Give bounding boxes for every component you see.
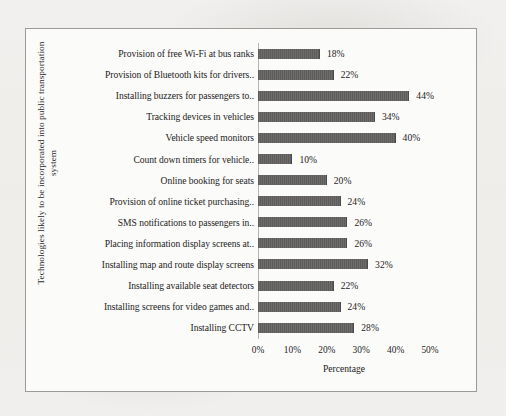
bar-value-label: 10% <box>299 154 317 165</box>
bar <box>258 196 341 206</box>
bar-row: Installing buzzers for passengers to..44… <box>36 85 466 106</box>
bar <box>258 91 409 101</box>
bar-container: 26% <box>258 233 466 254</box>
bar-value-label: 24% <box>348 301 366 312</box>
x-axis-ticks: 0%10%20%30%40%50% <box>258 345 430 359</box>
bar-container: 24% <box>258 191 466 212</box>
category-label: SMS notifications to passengers in.. <box>36 217 258 228</box>
category-label: Provision of online ticket purchasing.. <box>36 196 258 207</box>
bar-container: 20% <box>258 170 466 191</box>
category-label: Placing information display screens at.. <box>36 238 258 249</box>
category-label: Tracking devices in vehicles <box>36 111 258 122</box>
category-label: Provision of free Wi-Fi at bus ranks <box>36 48 258 59</box>
bar-value-label: 26% <box>354 217 372 228</box>
category-label: Online booking for seats <box>36 175 258 186</box>
bar-rows: Provision of free Wi-Fi at bus ranks18%P… <box>36 43 466 338</box>
bar-container: 22% <box>258 64 466 85</box>
bar <box>258 49 320 59</box>
bar-value-label: 32% <box>375 259 393 270</box>
bar-row: Installing available seat detectors22% <box>36 275 466 296</box>
bar-container: 44% <box>258 85 466 106</box>
bar-container: 28% <box>258 317 466 338</box>
bar-value-label: 40% <box>403 132 421 143</box>
bar-row: Installing screens for video games and..… <box>36 296 466 317</box>
bar <box>258 238 347 248</box>
bar <box>258 259 368 269</box>
x-axis-title: Percentage <box>258 363 430 374</box>
bar-container: 22% <box>258 275 466 296</box>
category-label: Installing CCTV <box>36 322 258 333</box>
bar-container: 18% <box>258 43 466 64</box>
bar-container: 26% <box>258 212 466 233</box>
bar <box>258 154 292 164</box>
category-label: Installing map and route display screens <box>36 259 258 270</box>
bar-value-label: 26% <box>354 238 372 249</box>
bar-value-label: 18% <box>327 48 345 59</box>
bar-value-label: 34% <box>382 111 400 122</box>
bar <box>258 112 375 122</box>
bar-container: 34% <box>258 106 466 127</box>
bar-row: Online booking for seats20% <box>36 170 466 191</box>
bar-row: Tracking devices in vehicles34% <box>36 106 466 127</box>
bar <box>258 217 347 227</box>
x-axis-tick-label: 40% <box>387 345 404 355</box>
bar-row: Placing information display screens at..… <box>36 233 466 254</box>
bar-row: Provision of free Wi-Fi at bus ranks18% <box>36 43 466 64</box>
category-label: Vehicle speed monitors <box>36 132 258 143</box>
bar-row: Vehicle speed monitors40% <box>36 127 466 148</box>
bar-row: Provision of online ticket purchasing..2… <box>36 191 466 212</box>
bar-value-label: 22% <box>341 280 359 291</box>
bar-row: SMS notifications to passengers in..26% <box>36 212 466 233</box>
category-label: Provision of Bluetooth kits for drivers.… <box>36 69 258 80</box>
bar-value-label: 20% <box>334 175 352 186</box>
bar <box>258 70 334 80</box>
bar <box>258 175 327 185</box>
bar-container: 10% <box>258 148 466 169</box>
bar-row: Count down timers for vehicle..10% <box>36 148 466 169</box>
chart-frame: Technologies likely to be incorporated i… <box>25 28 477 392</box>
bar <box>258 281 334 291</box>
x-axis-tick-label: 0% <box>252 345 265 355</box>
category-label: Installing buzzers for passengers to.. <box>36 90 258 101</box>
category-label: Installing available seat detectors <box>36 280 258 291</box>
bar-row: Installing CCTV28% <box>36 317 466 338</box>
bar-value-label: 44% <box>416 90 434 101</box>
bar <box>258 133 396 143</box>
category-label: Installing screens for video games and.. <box>36 301 258 312</box>
bar-row: Installing map and route display screens… <box>36 254 466 275</box>
x-axis-tick-label: 30% <box>353 345 370 355</box>
plot-area: Provision of free Wi-Fi at bus ranks18%P… <box>36 37 466 383</box>
bar-container: 40% <box>258 127 466 148</box>
bar-container: 24% <box>258 296 466 317</box>
bar <box>258 323 354 333</box>
bar-value-label: 28% <box>361 322 379 333</box>
x-axis-tick-label: 10% <box>284 345 301 355</box>
category-label: Count down timers for vehicle.. <box>36 154 258 165</box>
bar-row: Provision of Bluetooth kits for drivers.… <box>36 64 466 85</box>
bar-value-label: 22% <box>341 69 359 80</box>
bar-container: 32% <box>258 254 466 275</box>
bar <box>258 302 341 312</box>
x-axis-tick-label: 20% <box>318 345 335 355</box>
x-axis-tick-label: 50% <box>421 345 438 355</box>
bar-value-label: 24% <box>348 196 366 207</box>
